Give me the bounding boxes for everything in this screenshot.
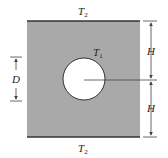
upper-h-label: H <box>146 45 156 57</box>
top-temp-label: T2 <box>78 5 88 19</box>
heat-conduction-diagram: T2 T2 T1 D H H <box>0 0 168 158</box>
bottom-temp-label: T2 <box>78 142 88 156</box>
diameter-label: D <box>11 73 20 85</box>
lower-h-label: H <box>146 102 156 114</box>
circular-hole <box>63 58 105 100</box>
